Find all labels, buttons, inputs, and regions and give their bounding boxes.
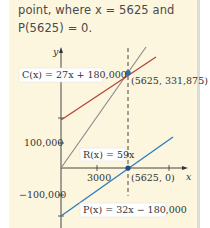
cost-label: C(x) = 27x + 180,000 [22, 69, 127, 80]
cost-line [61, 57, 156, 120]
revenue-label: R(x) = 59x [83, 149, 135, 160]
y-axis-arrow-icon [59, 47, 63, 53]
tick-label-neg100k: −100,000 [19, 189, 66, 200]
tick-label-3000: 3000 [87, 172, 111, 183]
break-even-bottom-label: (5625, 0) [131, 172, 175, 183]
break-even-chart: y x 100,000 −100,000 3000 C(x) = 27x + 1… [0, 0, 210, 228]
y-axis-label: y [52, 46, 59, 57]
break-even-point-bottom [125, 165, 130, 170]
x-axis-arrow-icon [182, 166, 188, 170]
break-even-top-label: (5625, 331,875) [131, 75, 208, 86]
tick-label-100k: 100,000 [24, 137, 63, 148]
x-axis-label: x [186, 171, 192, 182]
profit-label: P(x) = 32x − 180,000 [83, 204, 187, 215]
